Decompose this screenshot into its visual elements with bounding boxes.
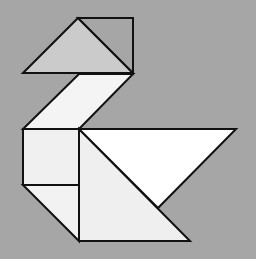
body-square [23, 129, 79, 185]
tangram-swan-diagram [0, 0, 256, 259]
